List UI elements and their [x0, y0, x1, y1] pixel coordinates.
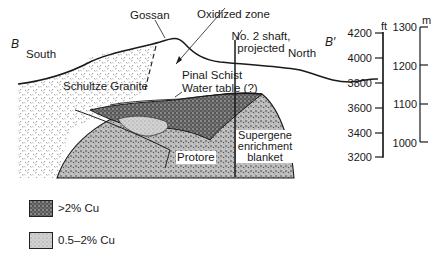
meters-scale-bar — [420, 27, 428, 142]
water-table-leader — [175, 92, 182, 97]
legend-swatch-dense — [29, 200, 53, 217]
gossan-leader — [155, 20, 165, 38]
meters-tick-1100: 1100 — [387, 98, 417, 110]
legend-swatch-light — [29, 232, 53, 249]
meters-tick-1000: 1000 — [387, 137, 417, 149]
meters-unit: m — [422, 14, 431, 27]
meters-tick-1200: 1200 — [387, 60, 417, 72]
feet-tick-4000: 4000 — [342, 52, 372, 64]
supergene-label-line3: blanket — [237, 152, 293, 163]
light-pattern-icon — [30, 233, 52, 248]
meters-tick-1300: 1300 — [387, 21, 417, 33]
supergene-label: Supergene enrichment blanket — [236, 130, 294, 163]
feet-tick-3400: 3400 — [342, 127, 372, 139]
protore-label: Protore — [176, 151, 216, 164]
dense-pattern-icon — [30, 201, 52, 216]
feet-tick-4200: 4200 — [342, 27, 372, 39]
section-start-label: B — [11, 38, 19, 51]
gossan-label: Gossan — [130, 9, 170, 22]
section-end-label: B′ — [325, 36, 335, 49]
oxidized-arrowhead — [176, 56, 182, 64]
feet-tick-3800: 3800 — [342, 77, 372, 89]
pinal-schist-label: Pinal Schist — [182, 69, 242, 82]
shaft-label-line2: projected — [226, 42, 296, 54]
feet-tick-3600: 3600 — [342, 102, 372, 114]
legend-label-dense: >2% Cu — [58, 202, 99, 215]
schultze-granite-label: Schultze Granite — [63, 80, 148, 93]
feet-tick-3200: 3200 — [342, 151, 372, 163]
water-table-label: Water table (?) — [182, 82, 258, 95]
shaft-label-line1: No. 2 shaft, — [226, 30, 296, 42]
oxidized-zone-label: Oxidized zone — [197, 8, 270, 21]
legend-label-light: 0.5–2% Cu — [58, 234, 115, 247]
scale-mask — [380, 158, 388, 258]
direction-south: South — [26, 48, 56, 61]
cross-section-diagram — [0, 0, 443, 260]
shaft-label: No. 2 shaft, projected — [226, 30, 296, 54]
